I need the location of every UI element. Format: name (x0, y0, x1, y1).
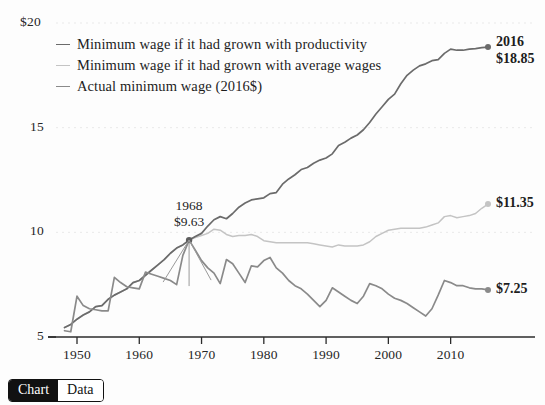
endpoint-dot (485, 201, 491, 207)
endpoint-dot (485, 44, 491, 50)
annotation-peak-year: 1968 (145, 198, 233, 214)
toggle-data-button[interactable]: Data (58, 380, 102, 401)
legend-item-average-wages: Minimum wage if it had grown with averag… (56, 55, 386, 76)
annotation-peak-value: $9.63 (145, 214, 233, 230)
x-axis-label-1970: 1970 (172, 347, 232, 363)
x-axis-label-1950: 1950 (47, 347, 107, 363)
series-line (65, 240, 488, 332)
chart-container: $20 15 10 5 1950 1960 1970 1980 1990 200… (0, 0, 545, 375)
y-axis-label-5: 5 (0, 328, 44, 344)
legend-label-average-wages: Minimum wage if it had grown with averag… (77, 57, 381, 74)
annotation-endpoint-average-wages: $11.35 (496, 195, 534, 212)
y-axis-label-15: 15 (0, 119, 44, 135)
chart-page: $20 15 10 5 1950 1960 1970 1980 1990 200… (0, 0, 545, 405)
x-axis-label-2010: 2010 (421, 347, 481, 363)
chart-legend: Minimum wage if it had grown with produc… (56, 34, 386, 97)
x-axis-label-1980: 1980 (234, 347, 294, 363)
y-axis-label-10: 10 (0, 223, 44, 239)
legend-item-actual: Actual minimum wage (2016$) (56, 76, 386, 97)
series-line (65, 204, 488, 328)
toggle-chart-button[interactable]: Chart (9, 380, 58, 401)
legend-dash-icon (56, 44, 70, 45)
chart-data-toggle[interactable]: Chart Data (8, 379, 104, 402)
legend-dash-icon (56, 65, 70, 66)
annotation-peak-1968: 1968 $9.63 (145, 198, 233, 230)
legend-label-actual: Actual minimum wage (2016$) (77, 78, 262, 95)
axis-lines (48, 337, 535, 344)
legend-dash-icon (56, 86, 70, 87)
y-axis-label-20: $20 (0, 14, 41, 30)
x-axis-label-2000: 2000 (358, 347, 418, 363)
legend-item-productivity: Minimum wage if it had grown with produc… (56, 34, 386, 55)
legend-label-productivity: Minimum wage if it had grown with produc… (77, 36, 367, 53)
endpoint-dot (485, 287, 491, 293)
annotation-endpoint-year: 2016 (496, 34, 535, 51)
x-axis-label-1990: 1990 (296, 347, 356, 363)
x-axis-label-1960: 1960 (109, 347, 169, 363)
annotation-endpoint-value-productivity: $18.85 (496, 51, 535, 68)
annotation-endpoint-productivity: 2016 $18.85 (496, 34, 535, 67)
annotation-endpoint-actual: $7.25 (496, 281, 528, 298)
